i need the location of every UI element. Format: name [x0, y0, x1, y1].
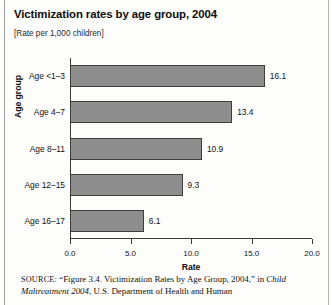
x-axis-tick-label: 0.0 [64, 249, 75, 258]
bar-row: 16.1Age <1–3 [70, 65, 312, 87]
bar-value-label: 16.1 [270, 71, 286, 81]
source-text-after: , U.S. Department of Health and Human [89, 286, 232, 296]
bar-value-label: 10.9 [207, 144, 223, 154]
x-axis-tick [70, 239, 71, 244]
x-axis-tick [312, 239, 313, 244]
category-label: Age <1–3 [29, 71, 65, 81]
bar-row: 13.4Age 4–7 [70, 101, 312, 123]
figure-subtitle: [Rate per 1,000 children] [14, 29, 104, 38]
source-text-before: “Figure 3.4. Victimization Rates by Age … [57, 274, 266, 284]
bar-value-label: 9.3 [188, 180, 200, 190]
x-axis-tick-label: 10.0 [183, 249, 199, 258]
x-axis-tick-label: 5.0 [125, 249, 136, 258]
bar-value-label: 6.1 [149, 216, 161, 226]
category-label: Age 8–11 [30, 144, 65, 154]
x-axis-tick-label: 15.0 [244, 249, 260, 258]
x-axis-tick-label: 20.0 [304, 249, 320, 258]
bar [70, 101, 232, 123]
bar [70, 65, 265, 87]
category-label: Age 12–15 [24, 180, 65, 190]
page-title: Victimization rates by age group, 2004 [14, 8, 217, 20]
bar-chart-plot: 0.05.010.015.020.016.1Age <1–313.4Age 4–… [70, 58, 312, 239]
bar-row: 6.1Age 16–17 [70, 210, 312, 232]
source-note: SOURCE: “Figure 3.4. Victimization Rates… [21, 274, 317, 297]
bar-row: 10.9Age 8–11 [70, 138, 312, 160]
x-axis-tick [131, 239, 132, 244]
x-axis-tick [252, 239, 253, 244]
x-axis-title: Rate [70, 262, 312, 272]
category-label: Age 16–17 [24, 216, 65, 226]
bar-row: 9.3Age 12–15 [70, 174, 312, 196]
source-label: SOURCE: [21, 275, 57, 284]
y-axis-title: Age group [13, 75, 23, 118]
bar [70, 210, 144, 232]
page-edge-right [328, 0, 329, 305]
bar-value-label: 13.4 [237, 107, 253, 117]
bar [70, 138, 202, 160]
bar [70, 174, 183, 196]
category-label: Age 4–7 [34, 107, 65, 117]
x-axis-tick [191, 239, 192, 244]
page-edge-left [4, 0, 5, 305]
figure-page: Victimization rates by age group, 2004 [… [0, 0, 332, 305]
